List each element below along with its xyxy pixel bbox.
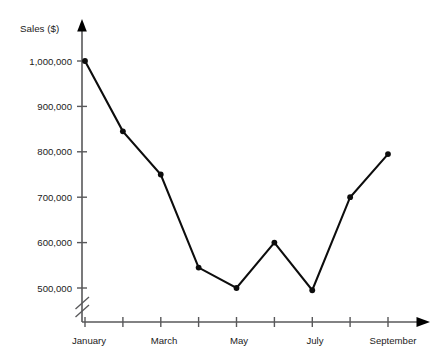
x-tick-label-july: July — [306, 335, 323, 346]
data-point-may — [234, 285, 240, 291]
data-point-september — [385, 151, 391, 157]
y-tick-labels: 1,000,000 900,000 800,000 700,000 600,00… — [29, 56, 72, 294]
x-tick-labels: January March May July September — [72, 335, 417, 346]
y-axis — [77, 19, 87, 322]
data-point-february — [120, 128, 126, 134]
y-axis-label: Sales ($) — [20, 23, 59, 34]
data-point-march — [158, 172, 164, 178]
x-tick-label-may: May — [230, 335, 248, 346]
data-point-markers — [82, 58, 391, 293]
x-tick-label-march: March — [151, 335, 178, 346]
x-axis — [82, 317, 430, 327]
chart-canvas: Sales ($) 1,000,000 900,000 — [0, 0, 443, 364]
data-point-august — [347, 194, 353, 200]
x-tick-label-september: September — [370, 335, 418, 346]
y-tick-label: 500,000 — [37, 283, 72, 294]
y-tick-label: 700,000 — [37, 192, 72, 203]
line-chart: Sales ($) 1,000,000 900,000 — [0, 0, 443, 364]
y-axis-arrow-icon — [77, 19, 87, 32]
x-axis-arrow-icon — [417, 317, 431, 327]
data-point-january — [82, 58, 88, 64]
data-point-june — [271, 240, 277, 246]
y-tick-label: 600,000 — [37, 237, 72, 248]
data-series-line — [85, 61, 388, 290]
x-tick-label-january: January — [72, 335, 106, 346]
data-point-april — [196, 265, 202, 271]
y-tick-label: 1,000,000 — [29, 56, 72, 67]
data-point-july — [309, 287, 315, 293]
y-tick-label: 800,000 — [37, 146, 72, 157]
y-tick-label: 900,000 — [37, 101, 72, 112]
